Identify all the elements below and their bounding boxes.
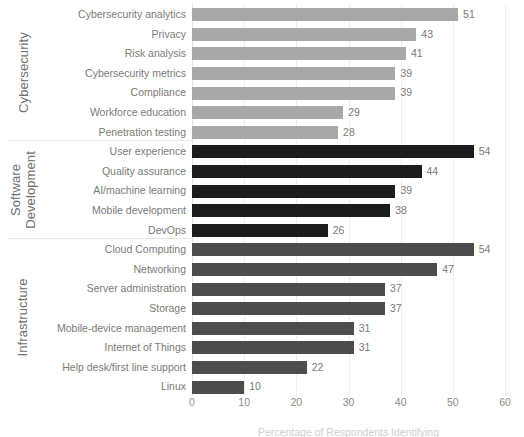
x-tick-label: 40 <box>395 396 407 408</box>
chart-row: Cybersecurity metrics39 <box>0 63 524 84</box>
bar-value-label: 37 <box>390 298 402 319</box>
bar[interactable] <box>192 67 395 80</box>
bar-value-label: 10 <box>249 376 261 397</box>
bar[interactable] <box>192 87 395 100</box>
bar[interactable] <box>192 322 354 335</box>
category-label: AI/machine learning <box>46 180 186 201</box>
group-separator <box>8 238 192 239</box>
bar-track: 54 <box>192 239 524 260</box>
bar[interactable] <box>192 283 385 296</box>
x-tick-label: 20 <box>290 396 302 408</box>
bar[interactable] <box>192 126 338 139</box>
category-label: Quality assurance <box>46 161 186 182</box>
x-tick-label: 0 <box>189 396 195 408</box>
bar-track: 44 <box>192 161 524 182</box>
chart-row: Privacy43 <box>0 24 524 45</box>
x-axis-ticks: 0102030405060 <box>192 396 505 416</box>
group-separator <box>8 140 192 141</box>
chart-row: Mobile development38 <box>0 200 524 221</box>
category-label: Compliance <box>46 82 186 103</box>
bar-value-label: 39 <box>400 82 412 103</box>
bar-value-label: 41 <box>411 43 423 64</box>
bar-value-label: 54 <box>479 239 491 260</box>
bar-track: 39 <box>192 63 524 84</box>
chart-row: Help desk/first line support22 <box>0 357 524 378</box>
chart-row: User experience54 <box>0 141 524 162</box>
bar-value-label: 38 <box>395 200 407 221</box>
bar[interactable] <box>192 361 307 374</box>
bar-track: 51 <box>192 4 524 25</box>
bar-value-label: 47 <box>442 259 454 280</box>
chart-row: Server administration37 <box>0 278 524 299</box>
category-label: Cloud Computing <box>46 239 186 260</box>
category-label: Privacy <box>46 24 186 45</box>
bar[interactable] <box>192 204 390 217</box>
bar-track: 43 <box>192 24 524 45</box>
bar[interactable] <box>192 8 458 21</box>
x-tick-label: 30 <box>343 396 355 408</box>
category-label: Internet of Things <box>46 337 186 358</box>
bar-track: 26 <box>192 220 524 241</box>
bar[interactable] <box>192 302 385 315</box>
bar[interactable] <box>192 185 395 198</box>
chart-row: Networking47 <box>0 259 524 280</box>
bar-track: 22 <box>192 357 524 378</box>
bar[interactable] <box>192 165 422 178</box>
chart-row: Workforce education29 <box>0 102 524 123</box>
chart-row: Cloud Computing54 <box>0 239 524 260</box>
bar-track: 37 <box>192 278 524 299</box>
category-label: Linux <box>46 376 186 397</box>
bar-value-label: 44 <box>427 161 439 182</box>
bar-value-label: 54 <box>479 141 491 162</box>
bar-value-label: 29 <box>348 102 360 123</box>
category-label: Cybersecurity metrics <box>46 63 186 84</box>
category-label: User experience <box>46 141 186 162</box>
bar-track: 39 <box>192 180 524 201</box>
bar-track: 37 <box>192 298 524 319</box>
bar-track: 41 <box>192 43 524 64</box>
category-label: Help desk/first line support <box>46 357 186 378</box>
category-label: Workforce education <box>46 102 186 123</box>
category-label: Cybersecurity analytics <box>46 4 186 25</box>
category-label: Mobile-device management <box>46 318 186 339</box>
x-tick-label: 50 <box>447 396 459 408</box>
chart-row: Internet of Things31 <box>0 337 524 358</box>
chart-row: Cybersecurity analytics51 <box>0 4 524 25</box>
x-tick-label: 60 <box>499 396 511 408</box>
bar-track: 31 <box>192 337 524 358</box>
chart-row: Storage37 <box>0 298 524 319</box>
bar[interactable] <box>192 243 474 256</box>
bar[interactable] <box>192 263 437 276</box>
bar[interactable] <box>192 28 416 41</box>
bar[interactable] <box>192 341 354 354</box>
bar-value-label: 31 <box>359 318 371 339</box>
chart-row: Risk analysis41 <box>0 43 524 64</box>
bar[interactable] <box>192 106 343 119</box>
bar-value-label: 26 <box>333 220 345 241</box>
bar[interactable] <box>192 381 244 394</box>
bar-value-label: 37 <box>390 278 402 299</box>
bar[interactable] <box>192 47 406 60</box>
bar-track: 54 <box>192 141 524 162</box>
category-label: Risk analysis <box>46 43 186 64</box>
category-label: Mobile development <box>46 200 186 221</box>
bar-track: 39 <box>192 82 524 103</box>
x-tick-label: 10 <box>238 396 250 408</box>
chart-row: Mobile-device management31 <box>0 318 524 339</box>
bar-value-label: 39 <box>400 180 412 201</box>
bar-track: 47 <box>192 259 524 280</box>
bar-value-label: 51 <box>463 4 475 25</box>
bar-track: 38 <box>192 200 524 221</box>
bar[interactable] <box>192 224 328 237</box>
bar-track: 29 <box>192 102 524 123</box>
category-label: Storage <box>46 298 186 319</box>
bar[interactable] <box>192 145 474 158</box>
x-axis-title: Percentage of Respondents Identifying <box>192 426 505 437</box>
bar-track: 10 <box>192 376 524 397</box>
bar-value-label: 28 <box>343 122 355 143</box>
chart-row: Linux10 <box>0 376 524 397</box>
chart-row: AI/machine learning39 <box>0 180 524 201</box>
bar-track: 31 <box>192 318 524 339</box>
horizontal-bar-chart: CybersecuritySoftwareDevelopmentInfrastr… <box>0 0 524 437</box>
chart-row: Quality assurance44 <box>0 161 524 182</box>
